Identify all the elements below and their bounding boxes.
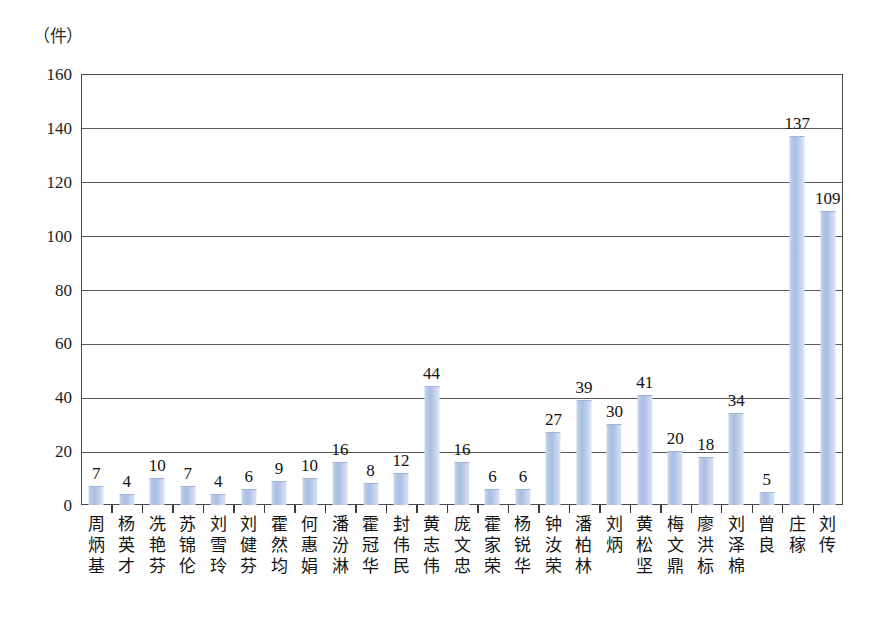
bar[interactable]: [790, 136, 805, 505]
bar[interactable]: [607, 424, 622, 505]
bar[interactable]: [272, 481, 287, 505]
label-char: 封: [388, 514, 414, 535]
bar[interactable]: [820, 211, 835, 505]
x-axis-tick: [386, 505, 387, 513]
bar-slot: 18: [691, 74, 721, 505]
bar-slot: 10: [142, 74, 172, 505]
x-axis-category-label: 黄志伟: [419, 514, 445, 577]
bar[interactable]: [363, 483, 378, 505]
label-char: 汝: [540, 535, 566, 556]
bar[interactable]: [576, 400, 591, 505]
bar-slot: 6: [233, 74, 263, 505]
x-axis-tick: [416, 505, 417, 513]
bar-value-label: 4: [214, 473, 223, 490]
label-char: 芬: [236, 556, 262, 577]
label-char: 民: [388, 556, 414, 577]
label-char: 冠: [358, 535, 384, 556]
bar-chart: （件） 020406080100120140160 74107469101681…: [0, 0, 885, 621]
x-axis-category-label: 黄松坚: [632, 514, 658, 577]
label-char: 伟: [419, 556, 445, 577]
label-char: 周: [83, 514, 109, 535]
bar-value-label: 44: [423, 365, 440, 382]
y-axis-tick-label: 140: [0, 120, 72, 137]
bar-slot: 7: [172, 74, 202, 505]
bar[interactable]: [454, 462, 469, 505]
label-char: 刘: [205, 514, 231, 535]
bar[interactable]: [668, 451, 683, 505]
bar[interactable]: [485, 489, 500, 505]
label-char: 忠: [449, 556, 475, 577]
bar[interactable]: [515, 489, 530, 505]
label-char: 苏: [175, 514, 201, 535]
bar-slot: 4: [203, 74, 233, 505]
bar-value-label: 10: [149, 457, 166, 474]
bar-value-label: 34: [728, 392, 745, 409]
bar-value-label: 8: [366, 462, 375, 479]
x-axis-category-label: 刘雪玲: [205, 514, 231, 577]
label-char: 锐: [510, 535, 536, 556]
bar-slot: 9: [264, 74, 294, 505]
label-char: 标: [693, 556, 719, 577]
label-char: 荣: [479, 556, 505, 577]
label-char: 冼: [144, 514, 170, 535]
bar[interactable]: [637, 395, 652, 505]
bar[interactable]: [729, 413, 744, 505]
label-char: 华: [510, 556, 536, 577]
bar[interactable]: [119, 494, 134, 505]
bar-value-label: 137: [785, 115, 811, 132]
bar[interactable]: [150, 478, 165, 505]
x-axis-category-label: 梅文鼎: [662, 514, 688, 577]
label-char: 林: [571, 556, 597, 577]
x-axis-category-label: 廖洪标: [693, 514, 719, 577]
bar[interactable]: [546, 432, 561, 505]
bar-slot: 6: [477, 74, 507, 505]
label-char: 良: [754, 535, 780, 556]
bar-value-label: 16: [453, 441, 470, 458]
bar-value-label: 16: [332, 441, 349, 458]
x-axis-category-labels: 周炳基杨英才冼艳芬苏锦伦刘雪玲刘健芬霍然均何惠娟潘汾淋霍冠华封伟民黄志伟庞文忠霍…: [81, 514, 843, 614]
label-char: 曾: [754, 514, 780, 535]
bar-value-label: 5: [763, 471, 772, 488]
bar[interactable]: [698, 457, 713, 505]
x-axis-tick: [660, 505, 661, 513]
bar[interactable]: [241, 489, 256, 505]
x-axis-tick: [813, 505, 814, 513]
bar[interactable]: [424, 386, 439, 505]
label-char: 志: [419, 535, 445, 556]
x-axis-tick: [569, 505, 570, 513]
x-axis-category-label: 庞文忠: [449, 514, 475, 577]
x-axis-tick: [294, 505, 295, 513]
x-axis-tick: [477, 505, 478, 513]
x-axis-category-label: 冼艳芬: [144, 514, 170, 577]
label-char: 霍: [479, 514, 505, 535]
label-char: 炳: [601, 535, 627, 556]
label-char: 钟: [540, 514, 566, 535]
label-char: 梅: [662, 514, 688, 535]
bar[interactable]: [211, 494, 226, 505]
bar[interactable]: [180, 486, 195, 505]
bar[interactable]: [89, 486, 104, 505]
label-char: 炳: [83, 535, 109, 556]
bar-value-label: 109: [815, 190, 841, 207]
bar-slot: 30: [599, 74, 629, 505]
bar-slot: 41: [630, 74, 660, 505]
x-axis-tick: [172, 505, 173, 513]
bar[interactable]: [394, 473, 409, 505]
bar[interactable]: [759, 492, 774, 505]
bar[interactable]: [333, 462, 348, 505]
bar-slot: 39: [569, 74, 599, 505]
label-char: 才: [114, 556, 140, 577]
y-axis-tick-label: 0: [0, 497, 72, 514]
bar-slot: 27: [538, 74, 568, 505]
label-char: 鼎: [662, 556, 688, 577]
bar-value-label: 10: [301, 457, 318, 474]
x-axis-category-label: 封伟民: [388, 514, 414, 577]
label-char: 传: [815, 535, 841, 556]
x-axis-tick: [721, 505, 722, 513]
x-axis-category-label: 周炳基: [83, 514, 109, 577]
label-char: 稼: [784, 535, 810, 556]
x-axis-category-label: 杨锐华: [510, 514, 536, 577]
x-axis-category-label: 何惠娟: [297, 514, 323, 577]
label-char: 潘: [327, 514, 353, 535]
bar[interactable]: [302, 478, 317, 505]
